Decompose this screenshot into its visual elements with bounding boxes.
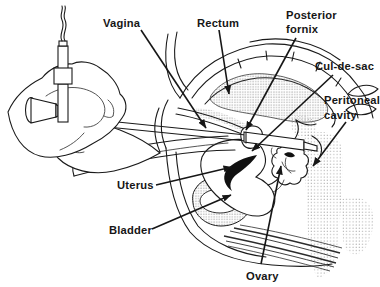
vagina-leader [141, 30, 206, 128]
label-bladder: Bladder [109, 224, 152, 236]
diagram-canvas: Vagina Rectum Posterior fornix Cul-de-sa… [0, 0, 380, 287]
label-ovary: Ovary [246, 270, 279, 282]
light-cable [61, 6, 66, 41]
label-peritoneal-2: cavity [324, 109, 357, 121]
label-rectum: Rectum [197, 17, 239, 29]
culdoscopy-diagram: Vagina Rectum Posterior fornix Cul-de-sa… [0, 0, 380, 287]
label-uterus: Uterus [117, 179, 154, 191]
label-peritoneal-1: Peritoneal [324, 94, 380, 106]
culdoscope-instrument [26, 6, 73, 123]
label-cul-de-sac: Cul-de-sac [315, 60, 374, 72]
label-posterior-fornix-2: fornix [286, 23, 319, 35]
label-vagina: Vagina [103, 17, 141, 29]
label-posterior-fornix-1: Posterior [286, 9, 337, 21]
